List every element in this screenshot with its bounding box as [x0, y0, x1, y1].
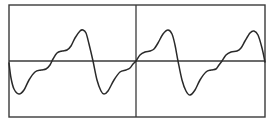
waveform-diagram [0, 0, 273, 124]
waveform-curve [9, 30, 265, 95]
